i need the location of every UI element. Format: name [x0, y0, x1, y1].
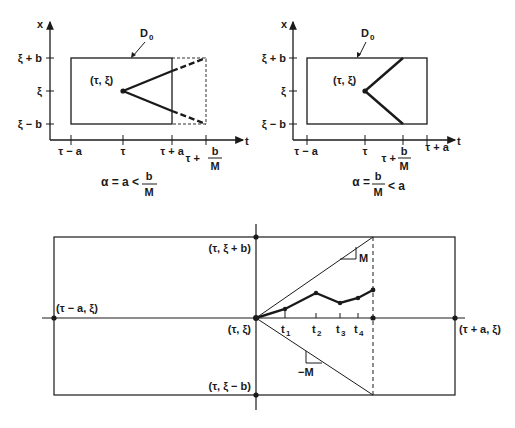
x-axis-label: x — [37, 18, 44, 30]
svg-text:M: M — [144, 186, 153, 198]
label-top: (τ, ξ + b) — [208, 242, 251, 255]
diagram-left: x t ξ + b ξ ξ − b τ − a τ τ + a τ + b M … — [18, 18, 249, 198]
svg-text:2: 2 — [317, 329, 322, 338]
slope-neg-m: −M — [298, 366, 314, 378]
svg-text:b: b — [401, 145, 408, 157]
svg-text:ξ − b: ξ − b — [262, 118, 286, 131]
svg-text:t: t — [457, 135, 461, 147]
svg-text:ξ + b: ξ + b — [262, 52, 286, 65]
svg-text:x: x — [281, 18, 288, 30]
svg-text:τ +: τ + — [382, 152, 396, 164]
svg-text:4: 4 — [359, 329, 364, 338]
svg-text:0: 0 — [370, 33, 375, 42]
svg-text:ξ: ξ — [281, 85, 286, 98]
point-tau-xi — [120, 88, 125, 93]
label-left: (τ − a, ξ) — [56, 302, 98, 315]
point-label: (τ, ξ) — [90, 74, 114, 87]
svg-text:τ + a: τ + a — [425, 141, 449, 153]
diagram-bottom: M −M t 1 t 2 t 3 t 4 (τ, ξ + b) (τ − a, … — [42, 224, 501, 410]
svg-text:(τ, ξ): (τ, ξ) — [333, 74, 357, 87]
svg-text:τ − a: τ − a — [294, 145, 318, 157]
tick-tau-plus-b-over-m: τ + — [186, 152, 200, 164]
svg-text:3: 3 — [341, 329, 346, 338]
svg-text:D: D — [361, 27, 369, 39]
region-label: D — [140, 27, 148, 39]
upper-bound-line — [256, 237, 373, 318]
caption-right: α = — [352, 175, 370, 189]
tick-xi-minus-b: ξ − b — [18, 118, 42, 131]
svg-text:1: 1 — [286, 329, 291, 338]
figure-canvas: x t ξ + b ξ ξ − b τ − a τ τ + a τ + b M … — [0, 0, 515, 428]
label-center: (τ, ξ) — [228, 323, 252, 336]
tick-xi: ξ — [37, 85, 42, 98]
tick-tau-plus-a: τ + a — [160, 145, 184, 157]
slope-m: M — [359, 252, 368, 264]
t4-label: t — [354, 323, 358, 335]
svg-text:b: b — [212, 145, 219, 157]
tick-tau: τ — [121, 145, 126, 157]
caption-left: α = a < — [101, 175, 139, 189]
svg-text:M: M — [399, 160, 408, 172]
tick-tau-minus-a: τ − a — [58, 145, 82, 157]
diagram-right: x t ξ + b ξ ξ − b τ − a τ τ + a τ + b M … — [262, 18, 461, 198]
t2-label: t — [312, 323, 316, 335]
tick-xi-plus-b: ξ + b — [18, 52, 42, 65]
svg-text:τ: τ — [363, 145, 368, 157]
t1-label: t — [281, 323, 285, 335]
svg-text:b: b — [146, 170, 153, 182]
svg-text:M: M — [373, 186, 382, 198]
label-bottom: (τ, ξ − b) — [208, 380, 251, 393]
svg-text:M: M — [210, 160, 219, 172]
svg-text:0: 0 — [149, 33, 154, 42]
svg-text:b: b — [375, 170, 382, 182]
svg-text:< a: < a — [388, 179, 405, 193]
t-axis-label: t — [245, 135, 249, 147]
t3-label: t — [336, 323, 340, 335]
label-right: (τ + a, ξ) — [459, 323, 501, 336]
